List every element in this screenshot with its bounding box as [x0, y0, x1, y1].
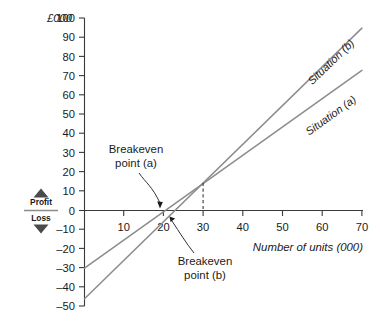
y-tick-label-neg30: –30	[56, 262, 75, 274]
breakeven-a-leader-line	[139, 173, 160, 203]
loss-label: Loss	[31, 213, 51, 223]
y-axis-tick-labels: 100 90 80 70 60 50 40 30 20 10 0 –10 –20…	[56, 12, 75, 312]
breakeven-b-line2: point (b)	[184, 269, 226, 281]
y-tick-label-70: 70	[63, 70, 75, 82]
x-axis-title: Number of units (000)	[253, 241, 363, 253]
x-tick-label-30: 30	[197, 221, 209, 233]
x-tick-label-10: 10	[117, 221, 129, 233]
up-triangle-icon	[34, 189, 49, 198]
y-tick-label-40: 40	[63, 127, 75, 139]
breakeven-b-leader-line	[172, 221, 194, 253]
breakeven-b-line1: Breakeven	[178, 255, 232, 267]
chart-canvas: 100 90 80 70 60 50 40 30 20 10 0 –10 –20…	[0, 0, 380, 324]
y-tick-label-neg40: –40	[56, 281, 75, 293]
y-tick-label-50: 50	[63, 108, 75, 120]
y-tick-label-20: 20	[63, 166, 75, 178]
annotation-breakeven-a: Breakeven point (a)	[109, 143, 163, 209]
profit-label: Profit	[30, 197, 52, 207]
down-triangle-icon	[34, 225, 49, 234]
y-axis-unit-label: £000	[46, 12, 73, 24]
y-tick-label-neg50: –50	[56, 300, 75, 312]
x-tick-label-70: 70	[356, 221, 368, 233]
y-tick-label-neg20: –20	[56, 243, 75, 255]
y-tick-label-30: 30	[63, 147, 75, 159]
y-tick-label-0: 0	[69, 205, 75, 217]
series-line-situation-a	[85, 70, 362, 268]
y-tick-label-60: 60	[63, 89, 75, 101]
profit-loss-indicator: Profit Loss	[24, 189, 58, 234]
x-tick-label-40: 40	[237, 221, 249, 233]
x-tick-label-60: 60	[316, 221, 328, 233]
breakeven-chart: 100 90 80 70 60 50 40 30 20 10 0 –10 –20…	[0, 0, 380, 324]
x-axis-tick-labels: 10 20 30 40 50 60 70	[117, 221, 368, 233]
y-tick-label-80: 80	[63, 51, 75, 63]
y-tick-label-neg10: –10	[56, 223, 75, 235]
y-tick-label-90: 90	[63, 31, 75, 43]
y-tick-label-10: 10	[63, 185, 75, 197]
x-tick-label-50: 50	[276, 221, 288, 233]
breakeven-a-line1: Breakeven	[109, 143, 163, 155]
breakeven-a-arrowhead-icon	[157, 202, 163, 209]
y-axis-ticks	[79, 18, 85, 306]
series-label-situation-a: Situation (a)	[303, 93, 358, 138]
breakeven-a-line2: point (a)	[115, 157, 157, 169]
